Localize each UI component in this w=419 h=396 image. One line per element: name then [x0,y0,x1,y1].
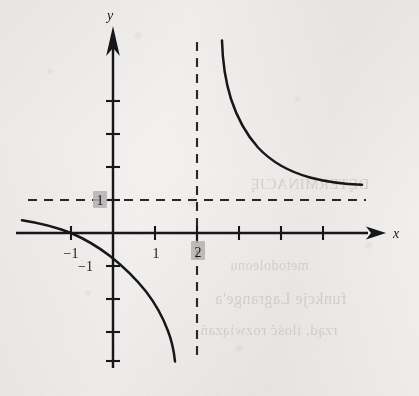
x-tick-label-two: 2 [195,245,202,260]
x-tick-label-neg-one: −1 [64,246,79,261]
y-tick-label-one: 1 [97,193,104,208]
curve-right-branch [222,41,362,185]
figure-canvas: DĘTERMINACJĘ metodoleonu funkcje Lagrang… [0,0,419,396]
curve-left-branch [22,220,175,361]
graph-svg: y x 1 2 −1 1 −1 [0,0,419,396]
y-axis-label: y [105,8,114,23]
y-tick-label-neg-one: −1 [78,259,93,274]
x-axis-label: x [392,226,400,241]
x-tick-label-one: 1 [153,246,160,261]
x-axis-arrowhead [366,226,386,239]
